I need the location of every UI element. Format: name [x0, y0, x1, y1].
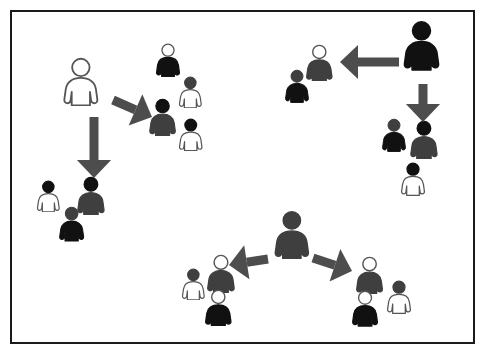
person-left-low-c — [58, 206, 85, 242]
person-head — [291, 70, 303, 82]
arrow-bottom-center-to-bottom-right — [287, 232, 378, 297]
person-bottom-left-a — [181, 268, 206, 300]
person-head — [185, 119, 197, 131]
person-body — [38, 194, 60, 212]
person-bottom-left-c — [204, 289, 233, 326]
person-top-mid-d — [178, 118, 203, 151]
person-top-mid-a — [155, 43, 181, 77]
arrow-shaft — [247, 259, 268, 262]
arrow-top-left-to-left-low — [68, 91, 120, 204]
person-body — [180, 90, 202, 108]
person-head — [407, 163, 419, 175]
person-body — [402, 176, 425, 195]
person-top-right-b — [284, 69, 310, 103]
person-head — [283, 212, 300, 229]
person-right-mid-c — [400, 162, 426, 196]
person-head — [212, 290, 225, 303]
person-head — [162, 44, 174, 56]
person-top-mid-b — [178, 76, 203, 108]
person-body — [286, 83, 309, 102]
person-left-low-a — [36, 180, 61, 212]
person-bottom-right-b — [386, 280, 412, 314]
arrow-head — [340, 45, 358, 79]
arrow-head — [406, 104, 440, 122]
arrow-bottom-center-to-bottom-left — [203, 233, 294, 291]
person-body — [180, 132, 202, 151]
person-body — [388, 294, 411, 313]
person-body — [206, 305, 231, 326]
person-body — [60, 221, 84, 241]
person-head — [188, 269, 199, 280]
person-head — [393, 281, 405, 293]
person-body — [183, 282, 205, 300]
arrow-head — [229, 245, 249, 279]
person-head — [185, 77, 196, 88]
diagram-canvas — [0, 0, 485, 356]
person-head — [65, 207, 78, 220]
person-head — [43, 181, 54, 192]
person-body — [353, 306, 378, 327]
arrow-head — [77, 160, 111, 178]
arrow-top-right-to-right-mid — [397, 58, 449, 148]
arrow-shaft — [313, 258, 335, 265]
